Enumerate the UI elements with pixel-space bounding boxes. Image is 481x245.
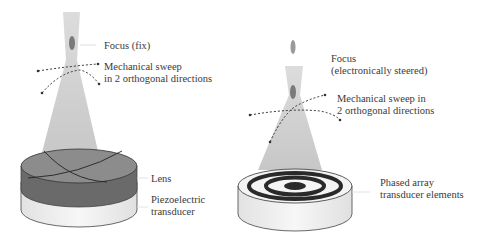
lens-label: Lens	[151, 173, 171, 185]
right-phased-array-transducer	[238, 169, 352, 231]
array-label-1: Phased array	[380, 177, 434, 189]
right-ultrasound-beam	[258, 66, 322, 170]
left-sweep-label-1: Mechanical sweep	[104, 61, 182, 73]
right-sweep-label-1: Mechanical sweep in	[337, 93, 426, 105]
right-upper-focus-spot	[291, 40, 296, 54]
diagram-canvas	[0, 0, 481, 245]
right-sweep-label-2: 2 orthogonal directions	[337, 105, 434, 117]
right-focus-label-1: Focus	[331, 53, 356, 65]
left-focus-spot	[69, 36, 75, 50]
array-center-element	[284, 182, 306, 190]
left-focus-label: Focus (fix)	[104, 40, 150, 52]
right-focus-label-2: (electronically steered)	[331, 65, 427, 77]
right-focus-spot	[290, 85, 296, 99]
left-sweep-label-2: in 2 orthogonal directions	[104, 73, 212, 85]
array-label-2: transducer elements	[380, 189, 464, 201]
left-transducer	[21, 149, 137, 227]
piezo-label-1: Piezoelectric	[151, 194, 205, 206]
piezo-label-2: transducer	[151, 206, 195, 218]
